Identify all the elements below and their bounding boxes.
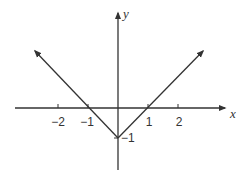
- right-branch: [118, 51, 203, 138]
- y-tick-label: −1: [121, 131, 135, 145]
- x-tick-label: 2: [176, 115, 183, 129]
- x-axis-label: x: [229, 106, 236, 121]
- graph: −2 −1 1 2 −1 x y: [0, 0, 246, 178]
- y-axis-label: y: [121, 6, 129, 21]
- left-branch: [35, 51, 118, 138]
- x-tick-label: −1: [80, 115, 94, 129]
- x-tick-label: 1: [146, 115, 153, 129]
- x-tick-label: −2: [51, 115, 65, 129]
